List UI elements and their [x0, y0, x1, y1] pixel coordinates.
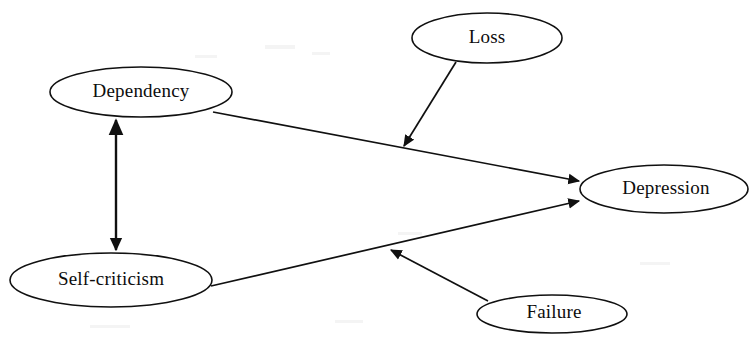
diagram-canvas: Loss Dependency Depression Self-criticis… — [0, 0, 753, 353]
node-depression[interactable]: Depression — [580, 165, 748, 213]
edge-self-criticism-to-depression — [211, 201, 579, 286]
path-diagram: Loss Dependency Depression Self-criticis… — [0, 0, 753, 353]
node-dependency[interactable]: Dependency — [50, 67, 232, 117]
edge-dependency-to-depression — [213, 112, 579, 181]
depression-label: Depression — [622, 177, 710, 198]
edge-failure-to-self-criticism-depression-path — [391, 250, 488, 301]
edge-loss-to-dependency-depression-path — [404, 62, 456, 146]
node-failure[interactable]: Failure — [477, 295, 627, 333]
node-loss[interactable]: Loss — [412, 13, 562, 63]
node-self-criticism[interactable]: Self-criticism — [10, 253, 212, 307]
failure-label: Failure — [526, 301, 581, 322]
dependency-label: Dependency — [93, 80, 190, 101]
loss-label: Loss — [469, 26, 506, 47]
self-criticism-label: Self-criticism — [58, 268, 164, 289]
